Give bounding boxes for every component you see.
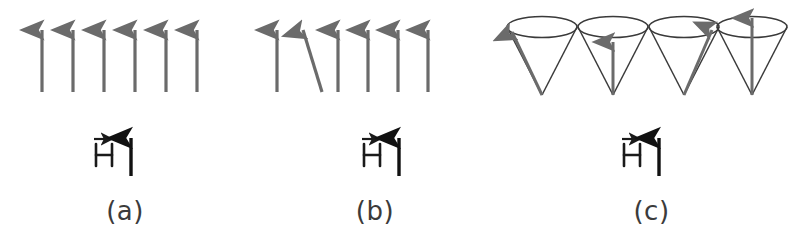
spin-configuration-figure: (a) [0, 0, 803, 248]
panel-a-spin-row [0, 0, 250, 115]
field-symbol-h [96, 144, 112, 166]
panel-a: (a) [0, 0, 250, 248]
precession-cone [717, 17, 787, 96]
panel-b-field-label [250, 118, 500, 190]
panel-c-cone-row [500, 0, 803, 115]
spin-arrow-deviated [303, 30, 322, 92]
panel-b-spin-row [250, 0, 500, 115]
field-symbol-h [624, 144, 640, 166]
spin-vector-arrow [512, 32, 542, 95]
panel-a-field-label [0, 118, 250, 190]
panel-c: (c) [500, 0, 803, 248]
precession-cone [649, 17, 719, 96]
panel-c-field-label [500, 118, 803, 190]
spin-vector-arrow [684, 30, 712, 95]
precession-cone [578, 17, 648, 96]
panel-b: (b) [250, 0, 500, 248]
spin-arrow [42, 30, 197, 92]
field-symbol-h [364, 144, 380, 166]
panel-b-caption: (b) [250, 196, 500, 226]
panel-a-caption: (a) [0, 196, 250, 226]
panel-c-caption: (c) [500, 196, 803, 226]
precession-cone [507, 17, 577, 96]
